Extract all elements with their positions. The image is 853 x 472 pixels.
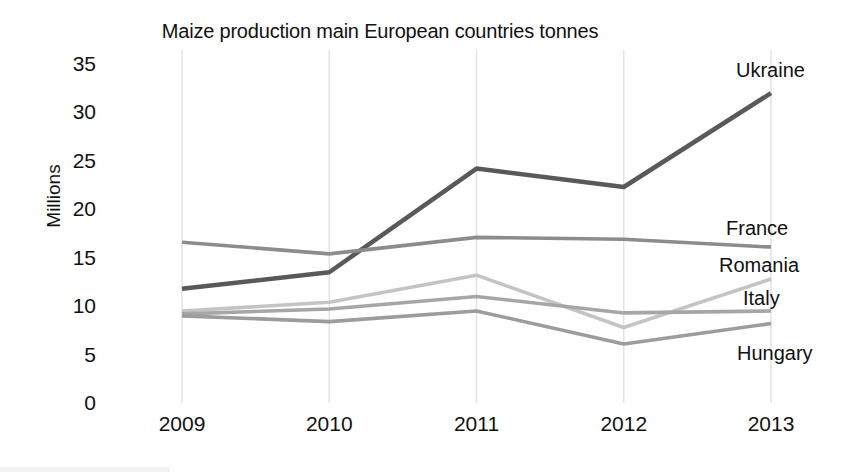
series-label-france: France: [726, 218, 788, 238]
gridlines: [182, 50, 771, 403]
series-label-hungary: Hungary: [737, 343, 813, 363]
bottom-edge-artifact: [0, 467, 170, 472]
series-label-ukraine: Ukraine: [736, 60, 805, 80]
series-label-italy: Italy: [743, 288, 780, 308]
chart-container: Maize production main European countries…: [0, 0, 853, 472]
series-label-romania: Romania: [719, 255, 799, 275]
